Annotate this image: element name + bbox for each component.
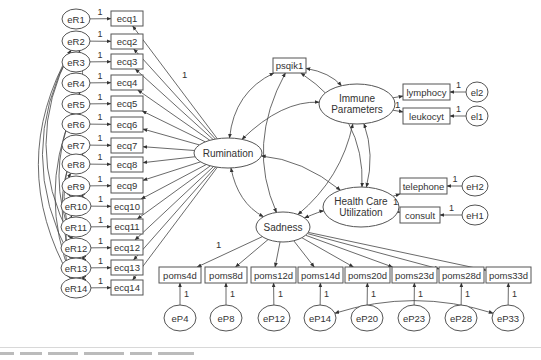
fixed-loading-label: 1 [512, 289, 517, 299]
loading-arrow-rumination-ecq6 [143, 129, 199, 145]
fixed-loading-label: 1 [182, 69, 187, 80]
error-label: eP23 [403, 313, 425, 324]
error-eR10: eR10 [61, 196, 91, 216]
error-label: eR11 [65, 222, 87, 233]
error-label: eH2 [466, 181, 483, 192]
error-eR1: eR1 [62, 9, 90, 29]
observed-label: poms33d [489, 270, 528, 281]
observed-label: telephone [403, 181, 445, 192]
observed-consult: consult [400, 207, 440, 223]
caption-divider [0, 347, 541, 348]
loading-arrow-immune-leukocyt [393, 110, 403, 112]
error-eP8: eP8 [210, 305, 242, 331]
observed-lymphocy: lymphocy [403, 84, 450, 100]
error-eR9: eR9 [62, 176, 90, 196]
error-label: el2 [471, 87, 484, 98]
figure-caption-cutoff [0, 352, 300, 360]
covariance-rum-sad [231, 168, 264, 217]
error-label: eP33 [497, 313, 519, 324]
loading-arrow-sadness-poms12d [275, 242, 280, 267]
covariance-rum-imm [242, 102, 319, 139]
fixed-loading-label: 1 [453, 174, 458, 184]
error-label: eR1 [67, 14, 84, 25]
observed-label: poms28d [442, 270, 481, 281]
error-eR8: eR8 [62, 154, 90, 174]
fixed-loading-label: 1 [278, 289, 283, 299]
loading-arrow-sadness-poms8d [236, 240, 269, 267]
observed-label: ecq5 [117, 98, 138, 109]
observed-ecq9: ecq9 [111, 178, 143, 193]
fixed-loading-label: 1 [449, 203, 454, 213]
observed-label: leukocyt [409, 111, 444, 122]
diagram-canvas: RuminationImmuneParametersHealth CareUti… [0, 0, 541, 360]
loading-arrow-sadness-poms33d [308, 232, 486, 270]
observed-ecq13: ecq13 [111, 260, 143, 275]
loading-arrow-rumination-ecq10 [141, 165, 206, 199]
observed-label: ecq6 [117, 119, 138, 130]
error-eR13: eR13 [61, 258, 91, 278]
latent-label: Health Care [334, 196, 388, 207]
observed-leukocyt: leukocyt [403, 108, 450, 124]
observed-ecq6: ecq6 [111, 117, 143, 132]
observed-ecq7: ecq7 [111, 138, 143, 153]
observed-ecq11: ecq11 [111, 219, 143, 234]
nodes-layer: RuminationImmuneParametersHealth CareUti… [61, 9, 531, 331]
error-label: eP4 [172, 313, 189, 324]
error-eR3: eR3 [62, 52, 90, 72]
observed-ecq8: ecq8 [111, 157, 143, 172]
error-label: eR7 [67, 140, 84, 151]
observed-ecq5: ecq5 [111, 96, 143, 111]
observed-label: ecq14 [114, 282, 140, 293]
latent-label: Sadness [264, 222, 303, 233]
error-eR4: eR4 [62, 73, 90, 93]
error-eP33: eP33 [492, 305, 524, 331]
observed-poms12d: poms12d [251, 267, 296, 283]
observed-label: lymphocy [406, 87, 446, 98]
observed-label: poms12d [254, 270, 293, 281]
fixed-loading-label: 1 [393, 196, 398, 207]
observed-poms23d: poms23d [392, 267, 437, 283]
error-label: eR5 [67, 99, 84, 110]
loading-arrow-rumination-ecq14 [133, 167, 218, 280]
observed-label: poms23d [395, 270, 434, 281]
observed-ecq4: ecq4 [111, 75, 143, 90]
fixed-loading-label: 1 [97, 29, 102, 39]
error-label: eP28 [450, 313, 472, 324]
loading-arrow-immune-lymphocy [393, 96, 403, 98]
loading-arrow-rumination-ecq4 [138, 90, 210, 140]
error-eR11: eR11 [61, 217, 91, 237]
loading-arrow-rumination-ecq12 [135, 167, 213, 240]
fixed-loading-label: 1 [371, 289, 376, 299]
error-eP4: eP4 [164, 305, 196, 331]
observed-label: ecq11 [114, 221, 139, 232]
observed-label: ecq12 [114, 242, 140, 253]
error-eP28: eP28 [445, 305, 477, 331]
observed-ecq3: ecq3 [111, 54, 143, 69]
observed-label: ecq1 [117, 13, 138, 24]
error-eP14: eP14 [304, 305, 336, 331]
latent-rum: Rumination [194, 138, 262, 168]
latent-sad: Sadness [256, 212, 310, 242]
observed-ecq10: ecq10 [111, 199, 143, 214]
error-label: eP12 [263, 313, 285, 324]
fixed-loading-label: 1 [324, 289, 329, 299]
fixed-loading-label: 1 [98, 215, 103, 225]
covariance-psqik1-sad [263, 73, 285, 212]
observed-label: ecq4 [117, 77, 138, 88]
fixed-loading-label: 1 [98, 194, 103, 204]
error-eR14: eR14 [61, 278, 91, 298]
error-label: eP14 [309, 313, 331, 324]
observed-label: ecq13 [114, 262, 140, 273]
observed-label: ecq7 [117, 140, 138, 151]
observed-label: ecq3 [117, 56, 138, 67]
error-eH2: eH2 [462, 176, 488, 196]
observed-psqik1: psqik1 [273, 58, 306, 73]
observed-label: ecq10 [114, 201, 140, 212]
fixed-loading-label: 1 [456, 80, 461, 90]
error-label: eR6 [67, 119, 84, 130]
fixed-loading-label: 1 [184, 289, 189, 299]
error-eR6: eR6 [62, 114, 90, 134]
loading-labels-layer: 111111111111111111111111111111 [97, 7, 517, 299]
observed-label: ecq8 [117, 159, 138, 170]
fixed-loading-label: 1 [418, 289, 423, 299]
